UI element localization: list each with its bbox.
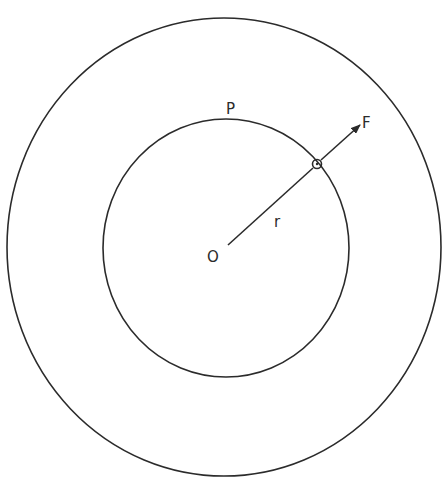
point-marker-dot — [316, 163, 318, 165]
inner-circle — [103, 119, 349, 377]
label-point-p: P — [226, 100, 235, 118]
label-center-o: O — [207, 248, 219, 266]
label-radius-r: r — [274, 213, 281, 231]
force-arrow — [321, 125, 360, 160]
outer-circle — [7, 18, 441, 476]
diagram-canvas: O r P F — [0, 0, 442, 489]
label-force-f: F — [362, 114, 371, 132]
radius-line — [228, 168, 313, 245]
